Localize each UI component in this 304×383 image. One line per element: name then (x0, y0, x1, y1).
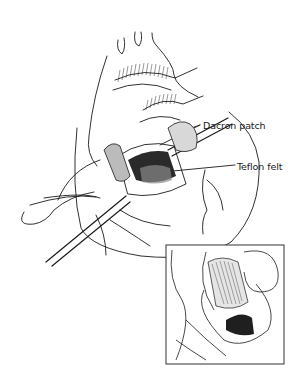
teflon-felt-label: Teflon felt (237, 161, 282, 172)
vessel-2 (135, 32, 142, 46)
heart-outline (75, 112, 259, 257)
vessel-1 (118, 38, 125, 54)
inset-detail (166, 245, 284, 364)
vessel-3 (152, 33, 198, 97)
illustration-canvas (0, 0, 304, 383)
dacron-patch-label: Dacron patch (203, 120, 266, 131)
heart-illustration (0, 0, 304, 383)
